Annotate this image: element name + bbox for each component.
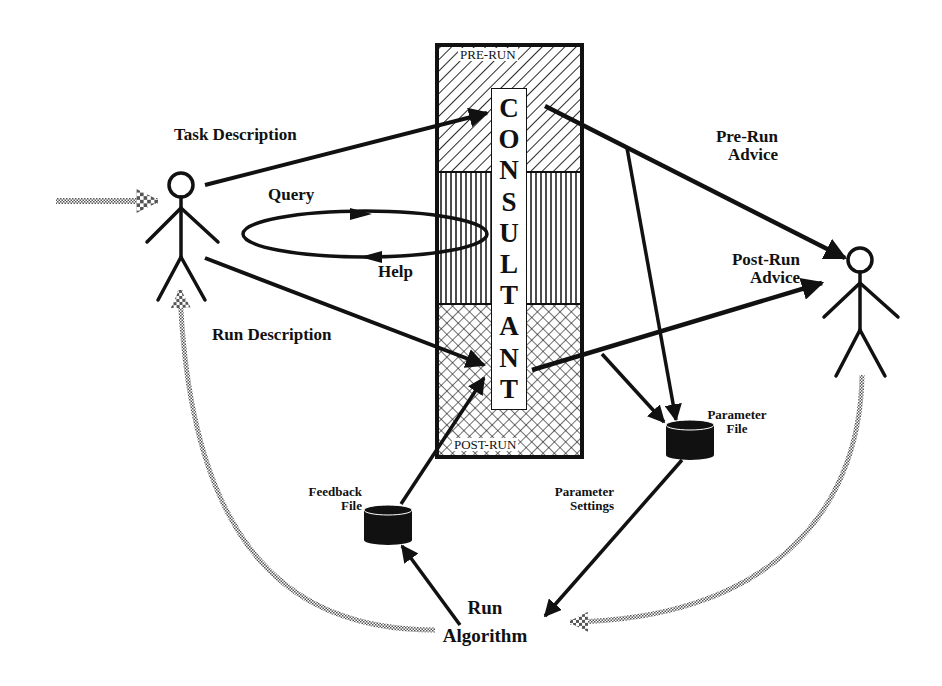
consultant-letter: C	[499, 95, 519, 122]
post-run-advice-line2: Advice	[700, 269, 800, 287]
parameter-settings-line1: Parameter	[520, 485, 614, 499]
consultant-title: C O N S U L T A N T	[491, 88, 527, 410]
pre-run-advice-line1: Pre-Run	[686, 128, 778, 146]
pre-run-advice-line2: Advice	[686, 146, 778, 164]
feedback-file-label: Feedback File	[290, 485, 362, 512]
post-run-advice-label: Post-Run Advice	[700, 251, 800, 287]
pre-run-advice-label: Pre-Run Advice	[686, 128, 778, 164]
advice-recipient-figure-icon	[824, 248, 898, 376]
consultant-letter: S	[501, 189, 516, 216]
parameter-file-line2: File	[692, 422, 782, 436]
pre-run-to-parameter-file-arrow	[627, 148, 676, 420]
consultant-letter: U	[499, 220, 519, 247]
query-label: Query	[268, 186, 314, 204]
consultant-letter: A	[499, 313, 519, 340]
consultant-letter: N	[499, 345, 519, 372]
feedback-file-cylinder-icon	[364, 505, 412, 545]
parameter-settings-label: Parameter Settings	[520, 485, 614, 512]
parameter-file-line1: Parameter	[692, 408, 782, 422]
help-label: Help	[378, 263, 413, 281]
consultant-letter: T	[500, 282, 518, 309]
parameter-file-label: Parameter File	[692, 408, 782, 435]
diagram-canvas	[0, 0, 942, 686]
parameter-settings-line2: Settings	[520, 499, 614, 513]
feedback-file-line2: File	[290, 499, 362, 513]
run-algorithm-line1: Run	[430, 598, 540, 618]
post-run-to-parameter-file-arrow	[602, 354, 664, 422]
pre-run-label: PRE-RUN	[458, 48, 518, 61]
consultant-letter: L	[500, 251, 518, 278]
run-algorithm-line2: Algorithm	[430, 626, 540, 646]
run-algorithm-label: Run Algorithm	[430, 598, 540, 646]
consultant-letter: O	[498, 126, 519, 153]
consultant-letter: N	[499, 157, 519, 184]
user-figure-icon	[147, 173, 218, 300]
post-run-advice-line1: Post-Run	[700, 251, 800, 269]
post-run-label: POST-RUN	[452, 438, 518, 451]
feedback-file-line1: Feedback	[290, 485, 362, 499]
task-description-label: Task Description	[174, 126, 297, 144]
consultant-letter: T	[500, 376, 518, 403]
run-description-label: Run Description	[212, 326, 331, 344]
